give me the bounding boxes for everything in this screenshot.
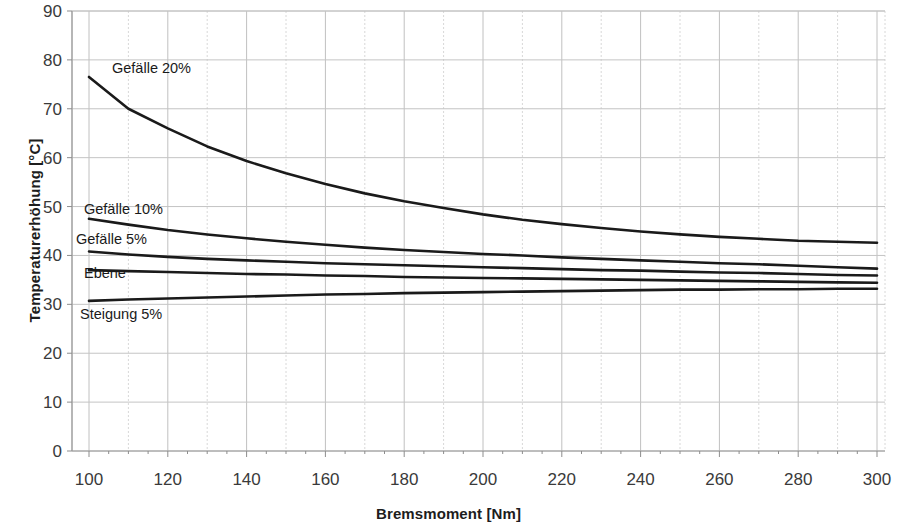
major-gridlines	[72, 11, 885, 451]
x-tick-label: 140	[217, 471, 277, 488]
x-tick-label: 120	[138, 471, 198, 488]
x-tick-label: 260	[689, 471, 749, 488]
minor-gridlines	[72, 11, 885, 451]
x-tick-label: 220	[532, 471, 592, 488]
x-tick-label: 200	[453, 471, 513, 488]
y-tick-label: 90	[20, 3, 62, 20]
y-tick-label: 80	[20, 52, 62, 69]
curve-label: Gefälle 5%	[76, 232, 147, 247]
axis-lines	[72, 11, 885, 451]
curve-label: Gefälle 20%	[112, 61, 191, 76]
x-tick-label: 160	[295, 471, 355, 488]
x-axis-title: Bremsmoment [Nm]	[0, 505, 897, 522]
x-tick-label: 240	[611, 471, 671, 488]
chart-plot-area	[0, 0, 897, 528]
y-tick-label: 10	[20, 394, 62, 411]
curve-label: Gefälle 10%	[84, 202, 163, 217]
x-tick-label: 180	[374, 471, 434, 488]
x-tick-label: 300	[847, 471, 897, 488]
curve-label: Ebene	[84, 266, 126, 281]
axis-tick-marks	[67, 11, 877, 457]
y-tick-label: 0	[20, 443, 62, 460]
curve-label: Steigung 5%	[80, 307, 162, 322]
chart-container: 0102030405060708090 10012014016018020022…	[0, 0, 897, 528]
x-tick-label: 100	[59, 471, 119, 488]
x-tick-label: 280	[768, 471, 828, 488]
y-axis-title: Temperaturerhöhung [°C]	[26, 101, 43, 361]
